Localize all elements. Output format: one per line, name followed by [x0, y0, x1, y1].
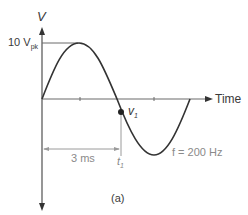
frequency-label: f = 200 Hz — [172, 146, 222, 158]
time-marker-sub: 1 — [120, 162, 124, 169]
point-v1 — [118, 109, 124, 115]
right-arrow-icon — [205, 96, 213, 102]
dimension-arrow-left-icon — [43, 147, 49, 151]
dimension-arrow-right-icon — [114, 147, 120, 151]
figure-caption: (a) — [111, 192, 124, 204]
peak-label: 10 Vpk — [8, 36, 38, 50]
point-label: v1 — [128, 104, 138, 119]
time-marker-label: t1 — [117, 155, 124, 169]
y-axis-label: V — [37, 9, 46, 24]
interval-label: 3 ms — [71, 152, 95, 164]
peak-label-main: 10 V — [8, 36, 31, 48]
up-arrow-icon — [39, 27, 45, 35]
peak-label-sub: pk — [31, 43, 38, 50]
x-axis-label: Time — [215, 92, 241, 106]
point-label-sub: 1 — [134, 112, 138, 119]
down-arrow-icon — [39, 203, 45, 211]
sine-wave-diagram — [0, 0, 248, 215]
